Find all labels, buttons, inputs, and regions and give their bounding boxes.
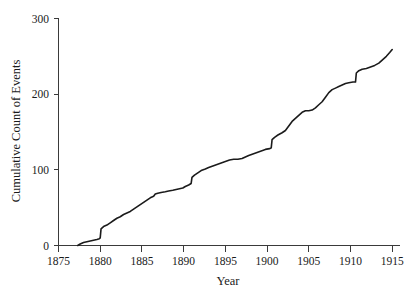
y-tick-label-300: 300 [32, 13, 50, 25]
x-tick-label-1910: 1910 [339, 255, 362, 267]
y-tick-label-100: 100 [32, 164, 50, 176]
y-tick-label-0: 0 [43, 240, 49, 252]
x-axis-title: Year [216, 274, 240, 288]
x-tick-label-1900: 1900 [256, 255, 279, 267]
x-tick-label-1885: 1885 [130, 255, 153, 267]
x-axis-ticks [59, 246, 393, 252]
y-axis-ticks [54, 19, 59, 246]
x-tick-label-1915: 1915 [381, 255, 404, 267]
x-tick-label-1890: 1890 [172, 255, 195, 267]
chart-plot-area: 0 100 200 300 1875 1880 1885 1890 1895 1… [0, 0, 415, 306]
x-tick-label-1880: 1880 [89, 255, 112, 267]
cumulative-events-line [78, 50, 393, 246]
x-tick-label-1895: 1895 [214, 255, 237, 267]
x-tick-label-1875: 1875 [47, 255, 70, 267]
y-axis-title: Cumulative Count of Events [9, 60, 23, 203]
chart-figure: 0 100 200 300 1875 1880 1885 1890 1895 1… [0, 0, 415, 306]
x-tick-label-1905: 1905 [297, 255, 320, 267]
y-tick-label-200: 200 [32, 88, 50, 100]
